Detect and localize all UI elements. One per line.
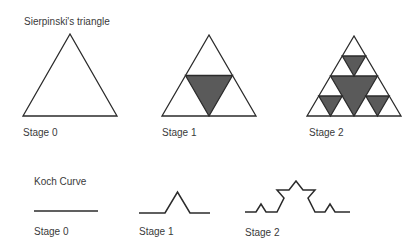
sierpinski-stage-2: [307, 36, 401, 116]
sierpinski-stage-0: [23, 34, 117, 116]
sierpinski-stage-1-label: Stage 1: [162, 127, 196, 138]
koch-stage-0-label: Stage 0: [34, 226, 68, 237]
koch-stage-2: [245, 181, 350, 212]
koch-title: Koch Curve: [34, 176, 86, 187]
sierpinski-stage-2-label: Stage 2: [309, 127, 343, 138]
sierpinski-stage-1: [162, 35, 256, 116]
sierpinski-stage-0-label: Stage 0: [23, 127, 57, 138]
koch-stage-1-label: Stage 1: [139, 226, 173, 237]
fractal-diagrams: [0, 0, 417, 238]
koch-stage-1: [139, 192, 210, 213]
koch-stage-2-label: Stage 2: [245, 227, 279, 238]
